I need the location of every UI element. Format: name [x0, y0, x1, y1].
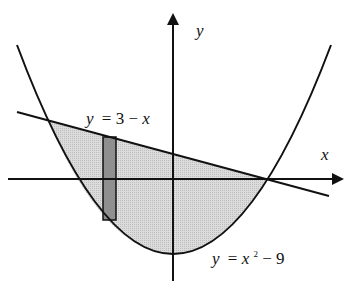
parabola-equation-label: y = x 2 − 9	[210, 242, 285, 268]
x-axis-arrow-icon	[332, 173, 344, 185]
x-axis-label: x	[320, 145, 329, 164]
line-equation-label: y = 3 − x	[84, 109, 150, 128]
y-axis-label: y	[194, 21, 204, 40]
y-axis-arrow-icon	[167, 13, 179, 25]
shaded-region	[48, 121, 267, 254]
diagram-canvas: y x y = 3 − x y = x 2 − 9	[0, 0, 351, 291]
